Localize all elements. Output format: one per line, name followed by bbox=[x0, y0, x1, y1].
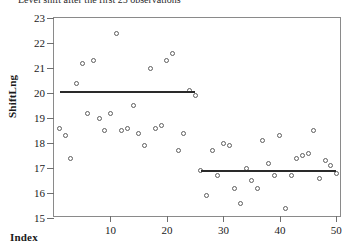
x-axis-tick-label: 20 bbox=[161, 225, 172, 236]
data-point bbox=[221, 141, 226, 146]
data-point bbox=[85, 111, 90, 116]
data-point bbox=[210, 148, 215, 153]
y-axis-title: ShiftLng bbox=[6, 75, 18, 118]
data-point bbox=[119, 128, 124, 133]
data-point bbox=[108, 111, 113, 116]
y-axis-tick bbox=[47, 118, 54, 119]
chart-figure: Level shift after the first 25 observati… bbox=[0, 0, 354, 248]
y-axis-tick bbox=[47, 68, 54, 69]
data-point bbox=[294, 156, 299, 161]
x-axis-tick bbox=[223, 216, 224, 222]
data-point bbox=[260, 138, 265, 143]
x-axis-tick-label: 50 bbox=[331, 225, 342, 236]
y-axis-tick bbox=[47, 43, 54, 44]
data-point bbox=[164, 58, 169, 63]
data-point bbox=[91, 58, 96, 63]
data-point bbox=[232, 186, 237, 191]
data-point bbox=[114, 31, 119, 36]
data-point bbox=[289, 173, 294, 178]
data-point bbox=[148, 66, 153, 71]
y-axis-tick bbox=[47, 193, 54, 194]
data-point bbox=[238, 201, 243, 206]
data-point bbox=[300, 153, 305, 158]
segment-1-mean-line bbox=[60, 91, 196, 93]
x-axis-tick bbox=[280, 216, 281, 222]
data-point bbox=[266, 161, 271, 166]
data-point bbox=[193, 93, 198, 98]
y-axis-tick-label: 23 bbox=[34, 13, 45, 24]
chart-title: Level shift after the first 25 observati… bbox=[18, 0, 348, 6]
y-axis-tick bbox=[47, 168, 54, 169]
y-axis-tick-label: 18 bbox=[34, 138, 45, 149]
data-point bbox=[142, 143, 147, 148]
data-point bbox=[249, 178, 254, 183]
x-axis-tick-label: 30 bbox=[218, 225, 229, 236]
x-axis-tick bbox=[167, 216, 168, 222]
y-axis-tick-label: 16 bbox=[34, 188, 45, 199]
x-axis-tick-label: 10 bbox=[105, 225, 116, 236]
y-axis-tick-label: 15 bbox=[34, 213, 45, 224]
y-axis-tick bbox=[47, 18, 54, 19]
data-point bbox=[68, 156, 73, 161]
y-axis-tick bbox=[47, 218, 54, 219]
data-point bbox=[63, 133, 68, 138]
data-point bbox=[176, 148, 181, 153]
plot-area: 1516171819202122231020304050 bbox=[53, 17, 341, 217]
x-axis-tick-label: 40 bbox=[274, 225, 285, 236]
y-axis-tick-label: 22 bbox=[34, 38, 45, 49]
data-point bbox=[311, 128, 316, 133]
data-point bbox=[323, 158, 328, 163]
y-axis-tick-label: 20 bbox=[34, 88, 45, 99]
x-axis-tick bbox=[110, 216, 111, 222]
data-point-layer bbox=[54, 18, 340, 216]
data-point bbox=[328, 163, 333, 168]
y-axis-tick-label: 21 bbox=[34, 63, 45, 74]
data-point bbox=[283, 206, 288, 211]
data-point bbox=[131, 103, 136, 108]
data-point bbox=[80, 61, 85, 66]
data-point bbox=[97, 116, 102, 121]
segment-2-mean-line bbox=[201, 170, 337, 172]
data-point bbox=[204, 193, 209, 198]
data-point bbox=[181, 131, 186, 136]
data-point bbox=[317, 176, 322, 181]
data-point bbox=[306, 151, 311, 156]
data-point bbox=[227, 143, 232, 148]
y-axis-tick-label: 17 bbox=[34, 163, 45, 174]
y-axis-tick bbox=[47, 93, 54, 94]
data-point bbox=[277, 133, 282, 138]
data-point bbox=[102, 128, 107, 133]
data-point bbox=[272, 173, 277, 178]
data-point bbox=[159, 123, 164, 128]
x-axis-tick bbox=[336, 216, 337, 222]
data-point bbox=[125, 126, 130, 131]
data-point bbox=[215, 173, 220, 178]
data-point bbox=[255, 186, 260, 191]
x-axis-title: Index bbox=[10, 231, 38, 243]
data-point bbox=[74, 81, 79, 86]
data-point bbox=[153, 126, 158, 131]
y-axis-tick-label: 19 bbox=[34, 113, 45, 124]
data-point bbox=[136, 131, 141, 136]
data-point bbox=[57, 126, 62, 131]
data-point bbox=[170, 51, 175, 56]
y-axis-tick bbox=[47, 143, 54, 144]
